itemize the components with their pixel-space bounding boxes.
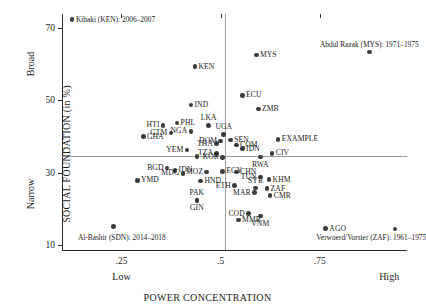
data-point-label: CMR [274,192,291,200]
data-point [220,169,225,174]
chart-annotation: Al-Bashir (SDN): 2014–2018 [78,234,166,241]
x-axis-low-caption: Low [112,271,130,282]
data-point [254,53,259,58]
data-point-label: MDG [161,169,179,177]
data-point-label: AGO [329,225,346,233]
data-point [323,226,328,231]
data-point [198,179,203,184]
x-tick-label: .25 [116,256,128,266]
y-tick [58,28,62,29]
data-point [234,143,239,148]
data-point-label: THA [197,140,213,148]
y-tick-label: 10 [0,240,55,250]
y-tick [58,245,62,246]
data-point-label: ETH [216,182,231,190]
data-point-label: PAK [189,189,204,197]
y-tick-label: 50 [0,95,55,105]
y-axis-title: SOCIAL FOUNDATION (in %) [61,85,72,223]
y-axis-high-caption: Broad [18,59,42,70]
data-point [189,129,194,134]
data-point-label: MOZ [186,168,203,176]
x-tick [320,14,321,18]
data-point-label: MYS [260,51,277,59]
data-point [240,146,245,151]
data-point-label: ZMB [262,105,279,113]
y-tick-label: 70 [0,23,55,33]
data-point-label: KEN [198,63,214,71]
data-point [258,214,263,219]
data-point [268,193,273,198]
data-point [141,134,146,139]
data-point [218,139,223,144]
x-tick [221,14,222,18]
x-axis-line [62,250,407,251]
data-point [195,154,200,159]
data-point [206,123,211,128]
data-point-label: LKA [201,115,217,123]
data-point-label: KHM [273,176,291,184]
data-point-label: EXAMPLE [282,136,319,144]
data-point [228,138,233,143]
chart-annotation: Abdul Razak (MYS): 1971–1975 [320,41,419,48]
data-point-label: YMD [141,177,159,185]
data-point-label: SYR [248,177,263,185]
data-point [265,186,270,191]
data-point [252,190,257,195]
data-point [276,137,281,142]
plot-area: KENMYSECUINDZMBPHLHTILKAGTMNGAUGAGHADOMS… [62,14,407,250]
data-point [204,170,209,175]
x-axis-high-caption: High [379,271,399,282]
data-point [240,93,245,98]
data-point [195,198,200,203]
data-point-label: GIN [190,204,204,212]
data-point-label: UGA [215,124,232,132]
data-point [270,151,275,156]
x-tick-label: .5 [217,256,224,266]
data-point [70,17,75,22]
data-point [111,224,116,229]
data-point-label: GHA [147,133,164,141]
data-point [161,123,166,128]
horizontal-reference-line [62,156,407,157]
data-point [193,64,198,69]
data-point [236,218,241,223]
data-point [267,177,272,182]
data-point-label: PHL [181,119,196,127]
data-point [175,121,180,126]
chart-annotation: Kibaki (KEN): 2006–2007 [76,16,155,23]
data-point [185,148,190,153]
data-point-label: ECU [246,92,262,100]
data-point [234,170,239,175]
data-point-label: KOR [203,154,219,162]
data-point [256,107,261,112]
data-point-label: IDN [246,145,260,153]
data-point [367,50,372,55]
data-point [181,171,186,176]
data-point-label: YEM [166,146,183,154]
x-axis-title: POWER CONCENTRATION [0,292,415,303]
data-point-label: CIV [276,150,289,158]
y-tick-label: 30 [0,168,55,178]
chart-annotation: Verwoerd/Vorster (ZAF): 1961–1975 [316,234,426,241]
data-point [214,141,219,146]
data-point [220,155,225,160]
data-point [258,155,263,160]
data-point-label: NGA [171,128,188,136]
data-point-label: MAR [233,189,251,197]
data-point [393,227,398,232]
y-axis-low-caption: Narrow [15,189,46,200]
data-point [189,103,194,108]
data-point [135,178,140,183]
data-point-label: IND [194,101,208,109]
x-tick-label: .75 [314,256,326,266]
data-point-label: VNM [251,220,269,228]
